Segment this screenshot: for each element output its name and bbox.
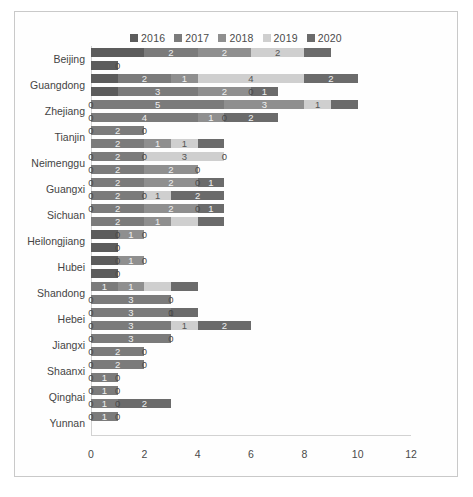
segment-value-label: 0 — [142, 256, 147, 266]
segment-value-label: 0 — [195, 204, 200, 214]
stacked-bar[interactable]: 02030 — [91, 152, 224, 161]
stacked-bar[interactable]: 0312 — [91, 321, 251, 330]
stacked-bar[interactable]: 030 — [91, 295, 171, 304]
bar-segment: 2 — [118, 74, 171, 83]
segment-value-label: 1 — [208, 204, 213, 214]
segment-value-label: 4 — [248, 74, 253, 84]
stacked-bar[interactable]: 2142 — [91, 74, 358, 83]
bar-group: Heilongjiang0100 — [91, 228, 411, 254]
segment-value-label: 0 — [88, 100, 93, 110]
bar-segment: 4 — [91, 113, 198, 122]
stacked-bar[interactable]: 222 — [91, 48, 331, 57]
segment-value-label: 0 — [168, 334, 173, 344]
stacked-bar[interactable]: 04102 — [91, 113, 278, 122]
segment-value-label: 0 — [115, 373, 120, 383]
segment-value-label: 0 — [88, 334, 93, 344]
segment-value-label: 0 — [222, 113, 227, 123]
stacked-bar[interactable]: 0531 — [91, 100, 358, 109]
bar-group: Sichuan0220121 — [91, 202, 411, 228]
bar-segment: 4 — [198, 74, 305, 83]
stacked-bar[interactable]: 0 — [91, 243, 118, 252]
segment-value-label: 3 — [128, 334, 133, 344]
bar-segment: 1 — [118, 282, 145, 291]
stacked-bar[interactable]: 020 — [91, 347, 144, 356]
bar-segment: 2 — [198, 48, 251, 57]
segment-value-label: 1 — [182, 321, 187, 331]
stacked-bar[interactable]: 010 — [91, 256, 144, 265]
category-label: Heilongjiang — [27, 235, 85, 247]
x-tick-label: 4 — [195, 448, 201, 460]
legend-item[interactable]: 2017 — [174, 32, 209, 44]
stacked-bar[interactable]: 0 — [91, 269, 118, 278]
segment-value-label: 2 — [222, 321, 227, 331]
bar-segment — [91, 243, 118, 252]
stacked-bar[interactable]: 0220 — [91, 165, 198, 174]
bar-segment: 2 — [91, 165, 144, 174]
segment-value-label: 1 — [168, 308, 173, 318]
stacked-bar[interactable]: 02201 — [91, 178, 224, 187]
bar-segment: 1 — [251, 87, 278, 96]
legend-item[interactable]: 2019 — [263, 32, 298, 44]
category-label: Yunnan — [49, 417, 85, 429]
segment-value-label: 3 — [182, 152, 187, 162]
category-label: Shaanxi — [47, 365, 85, 377]
bar-segment: 2 — [304, 74, 357, 83]
bar-segment: 2 — [91, 152, 144, 161]
bar-group: Yunnan010 — [91, 410, 411, 436]
bar-group: Guangdong21423201 — [91, 72, 411, 98]
bar-segment — [304, 48, 331, 57]
segment-value-label: 1 — [102, 412, 107, 422]
segment-value-label: 2 — [222, 87, 227, 97]
bar-segment: 1 — [171, 139, 198, 148]
stacked-bar[interactable]: 010 — [91, 386, 118, 395]
x-tick-label: 10 — [352, 448, 364, 460]
stacked-bar[interactable]: 020 — [91, 126, 144, 135]
segment-value-label: 4 — [142, 113, 147, 123]
stacked-bar[interactable]: 0102 — [91, 399, 198, 408]
bar-segment: 2 — [91, 204, 144, 213]
segment-value-label: 0 — [88, 178, 93, 188]
bar-group: Shaanxi020010 — [91, 358, 411, 384]
segment-value-label: 0 — [115, 412, 120, 422]
stacked-bar[interactable]: 020 — [91, 360, 144, 369]
segment-value-label: 1 — [315, 100, 320, 110]
bar-segment: 3 — [91, 321, 171, 330]
bar-segment: 3 — [91, 308, 171, 317]
stacked-bar[interactable]: 21 — [91, 217, 224, 226]
bar-segment: 2 — [144, 204, 197, 213]
stacked-bar[interactable]: 010 — [91, 373, 118, 382]
segment-value-label: 0 — [142, 360, 147, 370]
bar-segment: 1 — [198, 204, 225, 213]
stacked-bar[interactable]: 3201 — [91, 87, 278, 96]
segment-value-label: 0 — [222, 152, 227, 162]
bar-segment — [171, 217, 198, 226]
stacked-bar[interactable]: 010 — [91, 412, 118, 421]
segment-value-label: 2 — [195, 191, 200, 201]
segment-value-label: 1 — [128, 256, 133, 266]
bar-group: Beijing2220 — [91, 46, 411, 72]
stacked-bar[interactable]: 010 — [91, 230, 144, 239]
stacked-bar[interactable]: 0 — [91, 61, 118, 70]
segment-value-label: 2 — [115, 165, 120, 175]
bar-segment — [198, 217, 225, 226]
bar-segment: 1 — [171, 74, 198, 83]
legend-item[interactable]: 2018 — [218, 32, 253, 44]
segment-value-label: 2 — [115, 217, 120, 227]
category-label: Guangxi — [46, 183, 85, 195]
segment-value-label: 1 — [102, 282, 107, 292]
stacked-bar[interactable]: 02201 — [91, 204, 224, 213]
stacked-bar[interactable]: 030 — [91, 334, 171, 343]
bar-group: Hubei0100 — [91, 254, 411, 280]
legend-item[interactable]: 2020 — [307, 32, 342, 44]
stacked-bar[interactable]: 0301 — [91, 308, 198, 317]
segment-value-label: 0 — [88, 399, 93, 409]
x-tick-label: 12 — [405, 448, 417, 460]
legend-item[interactable]: 2016 — [130, 32, 165, 44]
stacked-bar[interactable]: 11 — [91, 282, 198, 291]
x-tick-label: 2 — [141, 448, 147, 460]
stacked-bar[interactable]: 211 — [91, 139, 224, 148]
category-label: Guangdong — [30, 79, 85, 91]
stacked-bar[interactable]: 02012 — [91, 191, 224, 200]
bar-segment: 1 — [144, 191, 171, 200]
category-label: Tianjin — [54, 131, 85, 143]
